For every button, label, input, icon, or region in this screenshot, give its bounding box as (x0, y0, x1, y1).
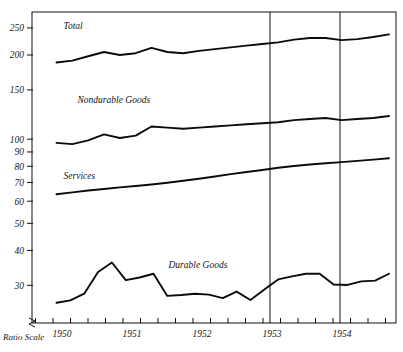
series-line-nondurable-goods (57, 116, 390, 144)
x-tick-label: 1954 (333, 329, 352, 339)
y-tick-label: 70 (15, 178, 25, 188)
y-tick-label: 200 (10, 50, 25, 60)
consumer-expenditures-line-chart: 25020015010090807060504030 1950195119521… (0, 0, 403, 352)
series-label-services: Services (64, 171, 96, 181)
y-tick-label: 100 (10, 135, 25, 145)
x-tick-label: 1952 (193, 329, 212, 339)
plot-frame (32, 12, 396, 323)
y-tick-label: 60 (15, 197, 25, 207)
ratio-scale-note: Ratio Scale (2, 332, 44, 342)
x-axis-tick-labels: 19501951195219531954 (53, 329, 352, 339)
y-tick-label: 150 (10, 85, 25, 95)
y-tick-label: 250 (10, 23, 25, 33)
x-axis-ticks (36, 318, 386, 323)
series-line-total (57, 34, 390, 62)
y-tick-label: 80 (15, 162, 25, 172)
series-label-durable-goods: Durable Goods (168, 260, 228, 270)
y-axis-tick-labels: 25020015010090807060504030 (10, 23, 25, 290)
series-label-total: Total (64, 21, 84, 31)
y-tick-label: 40 (15, 246, 25, 256)
series-inline-labels: TotalNondurable GoodsServicesDurable Goo… (64, 21, 228, 270)
series-label-nondurable-goods: Nondurable Goods (77, 95, 151, 105)
x-tick-label: 1951 (123, 329, 142, 339)
chart-page: 25020015010090807060504030 1950195119521… (0, 0, 403, 352)
y-tick-label: 50 (15, 219, 25, 229)
x-tick-label: 1950 (53, 329, 72, 339)
y-tick-label: 90 (15, 147, 25, 157)
x-tick-label: 1953 (263, 329, 282, 339)
y-tick-label: 30 (14, 281, 25, 291)
series-line-services (57, 158, 390, 194)
